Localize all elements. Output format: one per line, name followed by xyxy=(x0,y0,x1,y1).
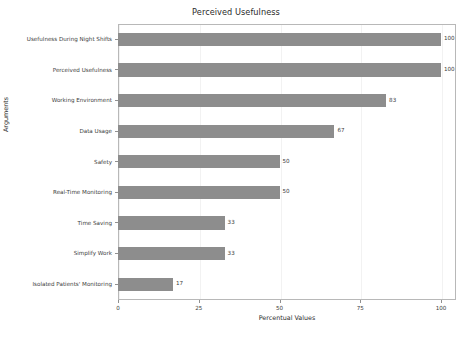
chart-title: Perceived Usefulness xyxy=(0,7,472,17)
y-tick-row: Working Environment xyxy=(0,85,112,116)
x-axis-title: Percentual Values xyxy=(118,314,456,322)
y-tick-mark xyxy=(115,39,118,40)
y-tick-mark xyxy=(115,222,118,223)
x-tick-mark xyxy=(360,300,361,303)
x-tick-mark xyxy=(280,300,281,303)
x-tick-label: 0 xyxy=(116,305,120,311)
y-tick-label: Isolated Patients' Monitoring xyxy=(32,281,112,287)
x-tick-label: 50 xyxy=(276,305,283,311)
y-tick-mark xyxy=(115,131,118,132)
y-tick-label: Usefulness During Night Shifts xyxy=(27,36,112,42)
y-tick-row: Time Saving xyxy=(0,208,112,239)
y-tick-mark xyxy=(115,69,118,70)
y-tick-row: Usefulness During Night Shifts xyxy=(0,24,112,55)
y-tick-label: Perceived Usefulness xyxy=(53,67,112,73)
x-tick-mark xyxy=(199,300,200,303)
x-tick-label: 75 xyxy=(357,305,364,311)
x-tick-mark xyxy=(118,300,119,303)
y-tick-mark xyxy=(115,192,118,193)
y-tick-label: Working Environment xyxy=(52,97,112,103)
chart-figure: Perceived Usefulness 100 100 83 67 50 xyxy=(0,0,472,339)
y-tick-mark xyxy=(115,253,118,254)
y-tick-row: Simplify Work xyxy=(0,238,112,269)
y-tick-row: Isolated Patients' Monitoring xyxy=(0,269,112,300)
y-axis-title: Arguments xyxy=(2,97,10,132)
y-tick-mark xyxy=(115,161,118,162)
y-tick-label: Simplify Work xyxy=(74,250,112,256)
y-tick-row: Safety xyxy=(0,146,112,177)
y-tick-row: Perceived Usefulness xyxy=(0,55,112,86)
y-tick-row: Real-Time Monitoring xyxy=(0,177,112,208)
y-tick-mark xyxy=(115,100,118,101)
y-tick-mark xyxy=(115,284,118,285)
y-tick-label: Time Saving xyxy=(78,220,112,226)
y-tick-label: Safety xyxy=(94,159,112,165)
y-tick-label: Data Usage xyxy=(79,128,112,134)
y-tick-label: Real-Time Monitoring xyxy=(53,189,112,195)
y-tick-row: Data Usage xyxy=(0,116,112,147)
x-tick-label: 100 xyxy=(436,305,447,311)
x-tick-mark xyxy=(441,300,442,303)
x-tick-label: 25 xyxy=(195,305,202,311)
y-axis-tick-labels: Usefulness During Night Shifts Perceived… xyxy=(0,24,472,300)
